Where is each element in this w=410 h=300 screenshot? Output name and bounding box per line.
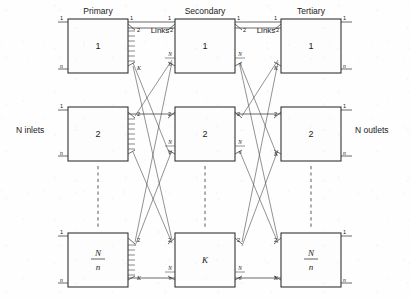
frac-num: N — [237, 51, 242, 57]
label-n-inlets: N inlets — [16, 125, 44, 135]
frac-num: N — [167, 139, 172, 145]
frac-num: N — [167, 265, 172, 271]
port-tertiary-1-right-bottom: n — [343, 63, 346, 69]
port-secondary-last-left-top: 2 — [168, 237, 171, 243]
links-label-left: Links — [151, 26, 170, 35]
port-secondary-1-right-top: 1 — [237, 15, 240, 21]
secondary-switch-1-label: 1 — [202, 41, 207, 51]
port-primary-1-left-bottom: n — [60, 63, 63, 69]
port-primary-last-right-top: 2 — [137, 237, 140, 243]
frac-num: N — [237, 139, 242, 145]
port-tertiary-2-left-bottom: K — [273, 151, 279, 157]
primary-switch-last[interactable] — [68, 233, 128, 287]
tertiary-switch-last-num: N — [307, 248, 315, 258]
frac-den: n — [169, 61, 172, 67]
link-marker-secondary-out: 2 — [243, 27, 246, 33]
port-tertiary-2-right-top: 1 — [343, 103, 346, 109]
port-primary-1-left-top: 1 — [60, 15, 63, 21]
primary-2-comb-ticks — [128, 119, 135, 149]
port-tertiary-2-left-top: 2 — [274, 111, 277, 117]
link-marker-secondary-in: 2 — [170, 27, 173, 33]
link-marker-primary-out: 2 — [137, 27, 140, 33]
port-tertiary-2-right-bottom: n — [343, 150, 346, 156]
port-secondary-2-right-bottom-fraction: N n — [235, 139, 245, 155]
frac-den: n — [239, 275, 242, 281]
primary-switch-1-label: 1 — [95, 41, 100, 51]
frac-den: n — [169, 149, 172, 155]
frac-den: n — [239, 61, 242, 67]
primary-switch-last-den: n — [96, 262, 101, 272]
stage-title-primary: Primary — [83, 6, 113, 16]
port-primary-1-right-top: 1 — [130, 15, 133, 21]
tertiary-switch-last[interactable] — [281, 233, 341, 287]
clos-network-figure: Primary Secondary Tertiary N inlets N ou… — [0, 0, 410, 300]
port-tertiary-1-right-top: 1 — [343, 15, 346, 21]
port-primary-1-right-bottom: K — [136, 65, 142, 71]
port-secondary-2-left-top: 2 — [168, 111, 171, 117]
port-primary-last-left-bottom: n — [60, 277, 63, 283]
stage-title-secondary: Secondary — [185, 6, 226, 16]
frac-num: N — [237, 265, 242, 271]
port-secondary-last-right-bottom-fraction: N n — [235, 265, 245, 281]
port-tertiary-last-right-top: 1 — [343, 229, 346, 235]
network-diagram-svg: Primary Secondary Tertiary N inlets N ou… — [0, 0, 410, 300]
port-tertiary-1-left-bottom: K — [273, 65, 279, 71]
primary-last-comb-ticks — [128, 245, 135, 275]
secondary-switch-2-label: 2 — [202, 129, 207, 139]
link-marker-tertiary-in: 2 — [276, 27, 279, 33]
port-secondary-1-right-bottom-fraction: N n — [235, 51, 245, 67]
port-tertiary-last-right-bottom: n — [343, 277, 346, 283]
port-tertiary-last-left-top: 2 — [274, 237, 277, 243]
port-secondary-last-right-top: 2 — [237, 237, 240, 243]
port-secondary-2-right-top: 2 — [237, 111, 240, 117]
frac-num: N — [167, 51, 172, 57]
port-primary-2-left-bottom: n — [60, 150, 63, 156]
port-secondary-1-left-bottom-fraction: N n — [165, 51, 175, 67]
primary-switch-last-num: N — [94, 248, 102, 258]
frac-den: n — [239, 149, 242, 155]
primary-switch-2-label: 2 — [95, 129, 100, 139]
label-n-outlets: N outlets — [355, 125, 389, 135]
port-tertiary-1-left-top: 1 — [274, 15, 277, 21]
port-primary-2-left-top: 1 — [60, 103, 63, 109]
port-primary-last-left-top: 1 — [60, 229, 63, 235]
tertiary-switch-last-den: n — [309, 262, 314, 272]
links-label-right: Links — [257, 26, 276, 35]
port-primary-2-right-top: 2 — [137, 111, 140, 117]
port-secondary-1-left-top: 1 — [168, 15, 171, 21]
tertiary-switch-1-label: 1 — [308, 41, 313, 51]
stage-title-tertiary: Tertiary — [297, 6, 326, 16]
tertiary-switch-2-label: 2 — [308, 129, 313, 139]
frac-den: n — [169, 275, 172, 281]
secondary-switch-last-label: K — [201, 255, 209, 265]
port-secondary-last-left-bottom-fraction: N n — [165, 265, 175, 281]
primary-1-comb-ticks — [128, 31, 135, 61]
